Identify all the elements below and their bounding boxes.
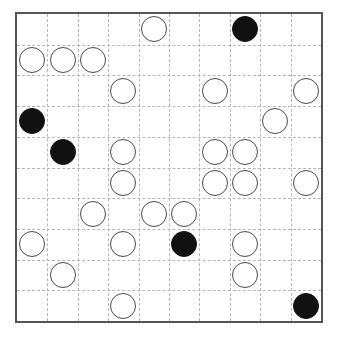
white-stone[interactable] — [110, 78, 136, 104]
white-stone[interactable] — [50, 47, 76, 73]
black-stone[interactable] — [293, 293, 319, 319]
white-stone[interactable] — [293, 78, 319, 104]
white-stone[interactable] — [110, 293, 136, 319]
white-stone[interactable] — [232, 139, 258, 165]
white-stone[interactable] — [232, 262, 258, 288]
white-stone[interactable] — [262, 108, 288, 134]
white-stone[interactable] — [202, 78, 228, 104]
white-stone[interactable] — [171, 201, 197, 227]
white-stone[interactable] — [80, 201, 106, 227]
white-stone[interactable] — [141, 201, 167, 227]
black-stone[interactable] — [232, 16, 258, 42]
white-stone[interactable] — [141, 16, 167, 42]
white-stone[interactable] — [19, 47, 45, 73]
white-stone[interactable] — [293, 170, 319, 196]
white-stone[interactable] — [110, 139, 136, 165]
page-title: Go board position diagram — [0, 21, 1, 22]
board-stones[interactable] — [17, 14, 321, 321]
white-stone[interactable] — [110, 170, 136, 196]
white-stone[interactable] — [50, 262, 76, 288]
white-stone[interactable] — [202, 170, 228, 196]
white-stone[interactable] — [110, 231, 136, 257]
white-stone[interactable] — [80, 47, 106, 73]
white-stone[interactable] — [232, 170, 258, 196]
go-board[interactable] — [15, 12, 323, 323]
white-stone[interactable] — [232, 231, 258, 257]
white-stone[interactable] — [202, 139, 228, 165]
screenshot-root: Go board position diagram — [0, 0, 338, 340]
black-stone[interactable] — [50, 139, 76, 165]
black-stone[interactable] — [19, 108, 45, 134]
white-stone[interactable] — [19, 231, 45, 257]
black-stone[interactable] — [171, 231, 197, 257]
